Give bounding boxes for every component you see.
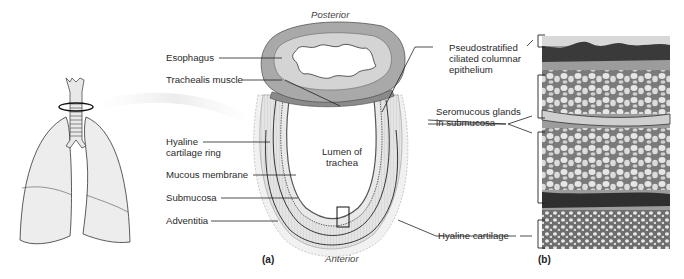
label-hyaline-cartilage-ring: Hyaline cartilage ring: [166, 136, 221, 158]
micrograph: [538, 35, 670, 249]
label-seromucous-glands: Seromucous glands in submucosa: [436, 106, 521, 128]
label-pseudostratified-epithelium: Pseudostratified ciliated columnar epith…: [449, 42, 521, 75]
label-esophagus: Esophagus: [166, 52, 214, 63]
label-adventitia: Adventitia: [166, 215, 208, 226]
panel-a-label: (a): [262, 254, 274, 265]
label-hyaline-cartilage: Hyaline cartilage: [438, 230, 509, 241]
anterior-label: Anterior: [325, 253, 359, 264]
swoosh-arrow-left: [100, 98, 250, 120]
label-mucous-membrane: Mucous membrane: [166, 169, 248, 180]
panel-b-label: (b): [538, 254, 551, 265]
label-trachealis-muscle: Trachealis muscle: [166, 74, 243, 85]
label-submucosa: Submucosa: [166, 192, 217, 203]
lumen-label: Lumen of trachea: [320, 146, 364, 168]
diagram-canvas: [0, 0, 684, 279]
posterior-label: Posterior: [311, 9, 349, 20]
